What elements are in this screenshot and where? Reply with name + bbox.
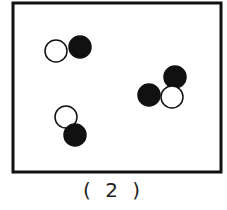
molecules-group [45, 36, 186, 146]
figure-caption: ( 2 ) [0, 178, 227, 202]
filled-atom-icon [64, 124, 86, 146]
container-box [13, 3, 221, 172]
molecule-top-left [45, 36, 91, 62]
filled-atom-icon [69, 36, 91, 58]
hollow-atom-icon [45, 40, 67, 62]
molecule-bottom [55, 106, 86, 146]
filled-atom-icon [164, 66, 186, 88]
hollow-atom-icon [161, 86, 183, 108]
filled-atom-icon [138, 84, 160, 106]
molecule-right [138, 66, 186, 108]
